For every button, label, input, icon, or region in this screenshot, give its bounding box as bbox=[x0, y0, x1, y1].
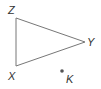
label-y: Y bbox=[87, 36, 95, 48]
label-z: Z bbox=[7, 4, 16, 16]
label-k: K bbox=[66, 73, 74, 85]
point-k bbox=[60, 69, 64, 73]
geometry-diagram: Z Y X K bbox=[0, 0, 101, 89]
triangle-xyz bbox=[16, 18, 85, 66]
label-x: X bbox=[7, 70, 16, 82]
